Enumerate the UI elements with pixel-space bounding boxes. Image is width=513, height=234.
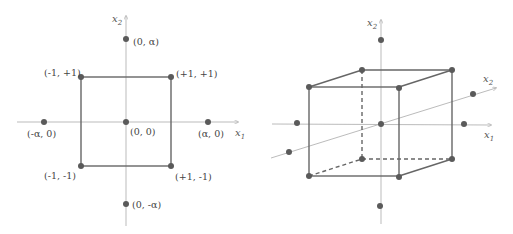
point-label: (-1, +1) [44,67,81,78]
x2-axis-label: x2 [367,17,378,31]
point-label: (+1, -1) [175,171,212,182]
point-label: (0, α) [133,36,159,47]
point-label: (-1, -1) [44,170,76,181]
point-label: (+1, +1) [176,68,217,79]
point-label: (-α, 0) [27,128,56,139]
point-label: (0, -α) [132,199,161,210]
diagram-canvas: x2 x1 (0, α) (-1, +1) (+1, +1) (-α, 0) (… [0,0,513,234]
left-diagram: x2 x1 (0, α) (-1, +1) (+1, +1) (-α, 0) (… [17,13,245,226]
x3-axis-label: x2 [483,73,494,87]
x1-axis-label: x1 [484,129,494,143]
x1-axis-label: x1 [235,127,245,141]
x2-axis-label: x2 [112,13,123,27]
point-label: (α, 0) [198,128,224,139]
point-label: (0, 0) [130,126,156,137]
right-diagram: x2 x1 x2 [271,17,496,224]
